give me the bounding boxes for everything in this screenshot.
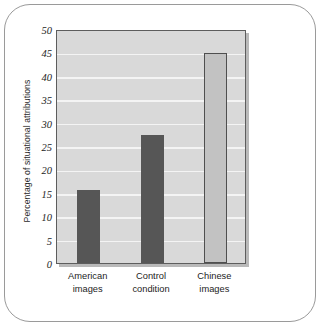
- y-axis-tick-label: 10: [12, 212, 52, 223]
- x-axis-tick-label-line: Chinese: [176, 270, 252, 283]
- y-axis-tick-label: 15: [12, 188, 52, 199]
- y-axis-tick-label: 5: [12, 235, 52, 246]
- y-axis-tick-label: 35: [12, 95, 52, 106]
- y-axis-tick-label: 30: [12, 118, 52, 129]
- bar-chart: Percentage of situational attributions 0…: [0, 0, 320, 326]
- y-axis-tick-label: 0: [12, 259, 52, 270]
- y-axis-tick-label: 45: [12, 48, 52, 59]
- x-axis-tick-label-line: images: [176, 283, 252, 296]
- y-axis-tick-label: 20: [12, 165, 52, 176]
- plot-area: [56, 30, 246, 264]
- bar: [141, 135, 164, 263]
- y-axis-tick-label: 40: [12, 71, 52, 82]
- y-axis-tick-label: 25: [12, 142, 52, 153]
- y-axis-tick-labels: 05101520253035404550: [10, 30, 52, 264]
- y-axis-tick-label: 50: [12, 25, 52, 36]
- x-axis-tick-label: Chineseimages: [176, 270, 252, 295]
- bar: [204, 53, 227, 263]
- bar: [77, 190, 100, 263]
- x-axis-tick-labels: AmericanimagesControlconditionChineseima…: [56, 270, 246, 312]
